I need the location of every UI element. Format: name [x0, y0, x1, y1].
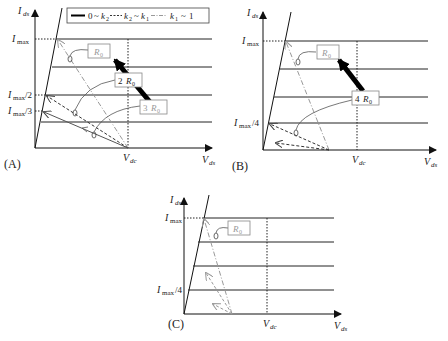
svg-text:1: 1	[175, 16, 178, 22]
load-line-4r0-low	[276, 143, 329, 150]
panel-c: R 0 I ds I max I max /4 V dc V ds (C)	[156, 194, 348, 333]
knee-line	[184, 195, 209, 314]
svg-text:dc: dc	[359, 159, 367, 167]
panel-c-caption: (C)	[168, 317, 184, 331]
svg-text:dc: dc	[130, 157, 138, 165]
svg-text:0: 0	[100, 52, 103, 58]
svg-text:ds: ds	[341, 325, 348, 333]
svg-text:R: R	[232, 224, 239, 234]
panel-a-caption: (A)	[4, 157, 21, 171]
legend: 0 ~ k 2 k 2 ~ k 1 k 1 ~ 1	[67, 8, 209, 23]
svg-text:ds: ds	[23, 10, 30, 18]
svg-text:~: ~	[94, 11, 99, 21]
svg-text:ds: ds	[431, 161, 438, 169]
svg-text:ds: ds	[175, 199, 182, 207]
svg-text:2: 2	[118, 76, 123, 86]
panel-b: R 0 4 R 0 I ds I max I max /4 V dc V ds …	[232, 7, 438, 173]
svg-text:R: R	[150, 103, 157, 113]
svg-text:2: 2	[106, 16, 109, 22]
diagram-canvas: R 0 2 R 0 3 R 0 I ds I max I max /2 I ma…	[0, 0, 448, 341]
svg-text:R: R	[93, 47, 100, 57]
svg-text:/4: /4	[175, 285, 183, 295]
svg-text:0: 0	[328, 53, 331, 59]
svg-text:0: 0	[88, 11, 93, 21]
svg-text:max: max	[170, 217, 183, 225]
svg-text:I: I	[246, 7, 251, 18]
svg-text:~: ~	[181, 11, 186, 21]
svg-text:I: I	[169, 194, 174, 205]
svg-text:0: 0	[132, 81, 135, 87]
svg-text:max: max	[239, 122, 252, 130]
svg-text:2: 2	[129, 16, 132, 22]
svg-text:I: I	[11, 33, 16, 44]
load-line-mid	[206, 273, 232, 314]
svg-text:dc: dc	[270, 323, 278, 331]
svg-text:1: 1	[189, 11, 194, 21]
svg-text:~: ~	[134, 11, 139, 21]
svg-text:max: max	[13, 94, 26, 102]
svg-text:1: 1	[146, 16, 149, 22]
svg-text:/2: /2	[25, 90, 32, 100]
panel-b-caption: (B)	[232, 159, 248, 173]
svg-text:I: I	[7, 105, 12, 116]
svg-text:I: I	[156, 284, 161, 295]
svg-text:I: I	[233, 117, 238, 128]
svg-text:0: 0	[157, 108, 160, 114]
svg-text:4: 4	[355, 94, 360, 104]
svg-text:R: R	[321, 48, 328, 58]
svg-text:max: max	[13, 110, 26, 118]
knee-line	[35, 8, 62, 148]
load-line-3r0	[44, 112, 128, 148]
svg-text:R: R	[362, 94, 369, 104]
svg-text:max: max	[162, 289, 175, 297]
svg-text:I: I	[7, 89, 12, 100]
load-change-arrow	[339, 60, 363, 91]
svg-text:max: max	[17, 38, 30, 46]
svg-text:0: 0	[369, 99, 372, 105]
svg-text:max: max	[247, 40, 260, 48]
svg-text:ds: ds	[252, 12, 259, 20]
svg-text:0: 0	[239, 229, 242, 235]
svg-text:I: I	[241, 35, 246, 46]
panel-a: R 0 2 R 0 3 R 0 I ds I max I max /2 I ma…	[4, 5, 216, 171]
svg-text:I: I	[17, 5, 22, 16]
svg-text:/3: /3	[25, 106, 33, 116]
svg-text:I: I	[164, 212, 169, 223]
svg-text:R: R	[125, 76, 132, 86]
svg-text:ds: ds	[209, 159, 216, 167]
svg-text:/4: /4	[252, 118, 260, 128]
knee-line	[263, 12, 291, 150]
svg-text:3: 3	[143, 103, 148, 113]
